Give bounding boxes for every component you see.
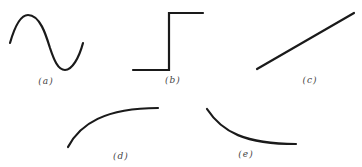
panel-label-a: (a) [38, 76, 53, 86]
figure-canvas: (a) (b) (c) (d) (e) [0, 0, 362, 167]
panel-label-d: (d) [113, 151, 129, 161]
sine-wave-curve [10, 15, 83, 70]
panel-label-b: (b) [165, 75, 181, 85]
step-function-curve [133, 13, 203, 70]
panel-label-c: (c) [302, 75, 317, 85]
decaying-curve [207, 109, 296, 144]
panel-label-e: (e) [238, 149, 253, 159]
saturating-curve [68, 108, 158, 147]
linear-line-curve [257, 13, 354, 69]
